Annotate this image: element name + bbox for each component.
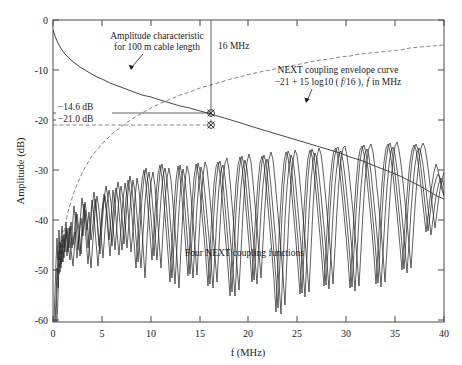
amplitude-characteristic-label-line2: for 100 m cable length [114, 42, 200, 52]
annotation-next-functions: Four NEXT coupling functions [185, 248, 304, 258]
y-tick-label-10: -10 [35, 65, 48, 76]
y-tick-label-40: -40 [35, 215, 48, 226]
next-functions-label: Four NEXT coupling functions [185, 248, 304, 258]
x-tick-label-30: 30 [341, 328, 351, 339]
envelope-formula-part-c: /16 ), [343, 77, 363, 88]
y-tick-label-0: 0 [43, 15, 48, 26]
envelope-formula-part-a: −21 + 15 log10 ( [275, 77, 339, 88]
envelope-label-line2: −21 + 15 log10 (f/16 ),fin MHz [275, 77, 402, 88]
marker-frequency-label: 16 MHz [218, 41, 249, 51]
amplitude-characteristic-label-line1: Amplitude characteristic [110, 31, 204, 41]
value-label-envelope-16mhz: −21.0 dB [58, 114, 93, 124]
chart-background [0, 0, 462, 365]
next-coupling-chart: 0 5 10 15 20 25 30 35 40 0 -10 -20 -30 -… [0, 0, 462, 365]
y-tick-label-60: -60 [35, 315, 48, 326]
y-tick-label-50: -50 [35, 265, 48, 276]
x-tick-label-40: 40 [439, 328, 449, 339]
x-tick-label-15: 15 [195, 328, 205, 339]
y-axis-title: Amplitude (dB) [15, 137, 27, 204]
x-tick-label-5: 5 [100, 328, 105, 339]
x-axis-title: f (MHz) [231, 347, 266, 359]
x-tick-label-25: 25 [292, 328, 302, 339]
envelope-label-line1: NEXT coupling envelope curve [278, 65, 399, 75]
value-labels: −14.6 dB −21.0 dB [56, 99, 112, 124]
value-label-attenuation-16mhz: −14.6 dB [58, 102, 93, 112]
y-tick-label-20: -20 [35, 115, 48, 126]
x-tick-label-0: 0 [51, 328, 56, 339]
x-tick-label-10: 10 [146, 328, 156, 339]
x-tick-label-35: 35 [390, 328, 400, 339]
annotation-16mhz: 16 MHz [218, 41, 249, 51]
x-tick-label-20: 20 [243, 328, 253, 339]
y-tick-label-30: -30 [35, 165, 48, 176]
envelope-formula-part-e: in MHz [372, 77, 401, 87]
